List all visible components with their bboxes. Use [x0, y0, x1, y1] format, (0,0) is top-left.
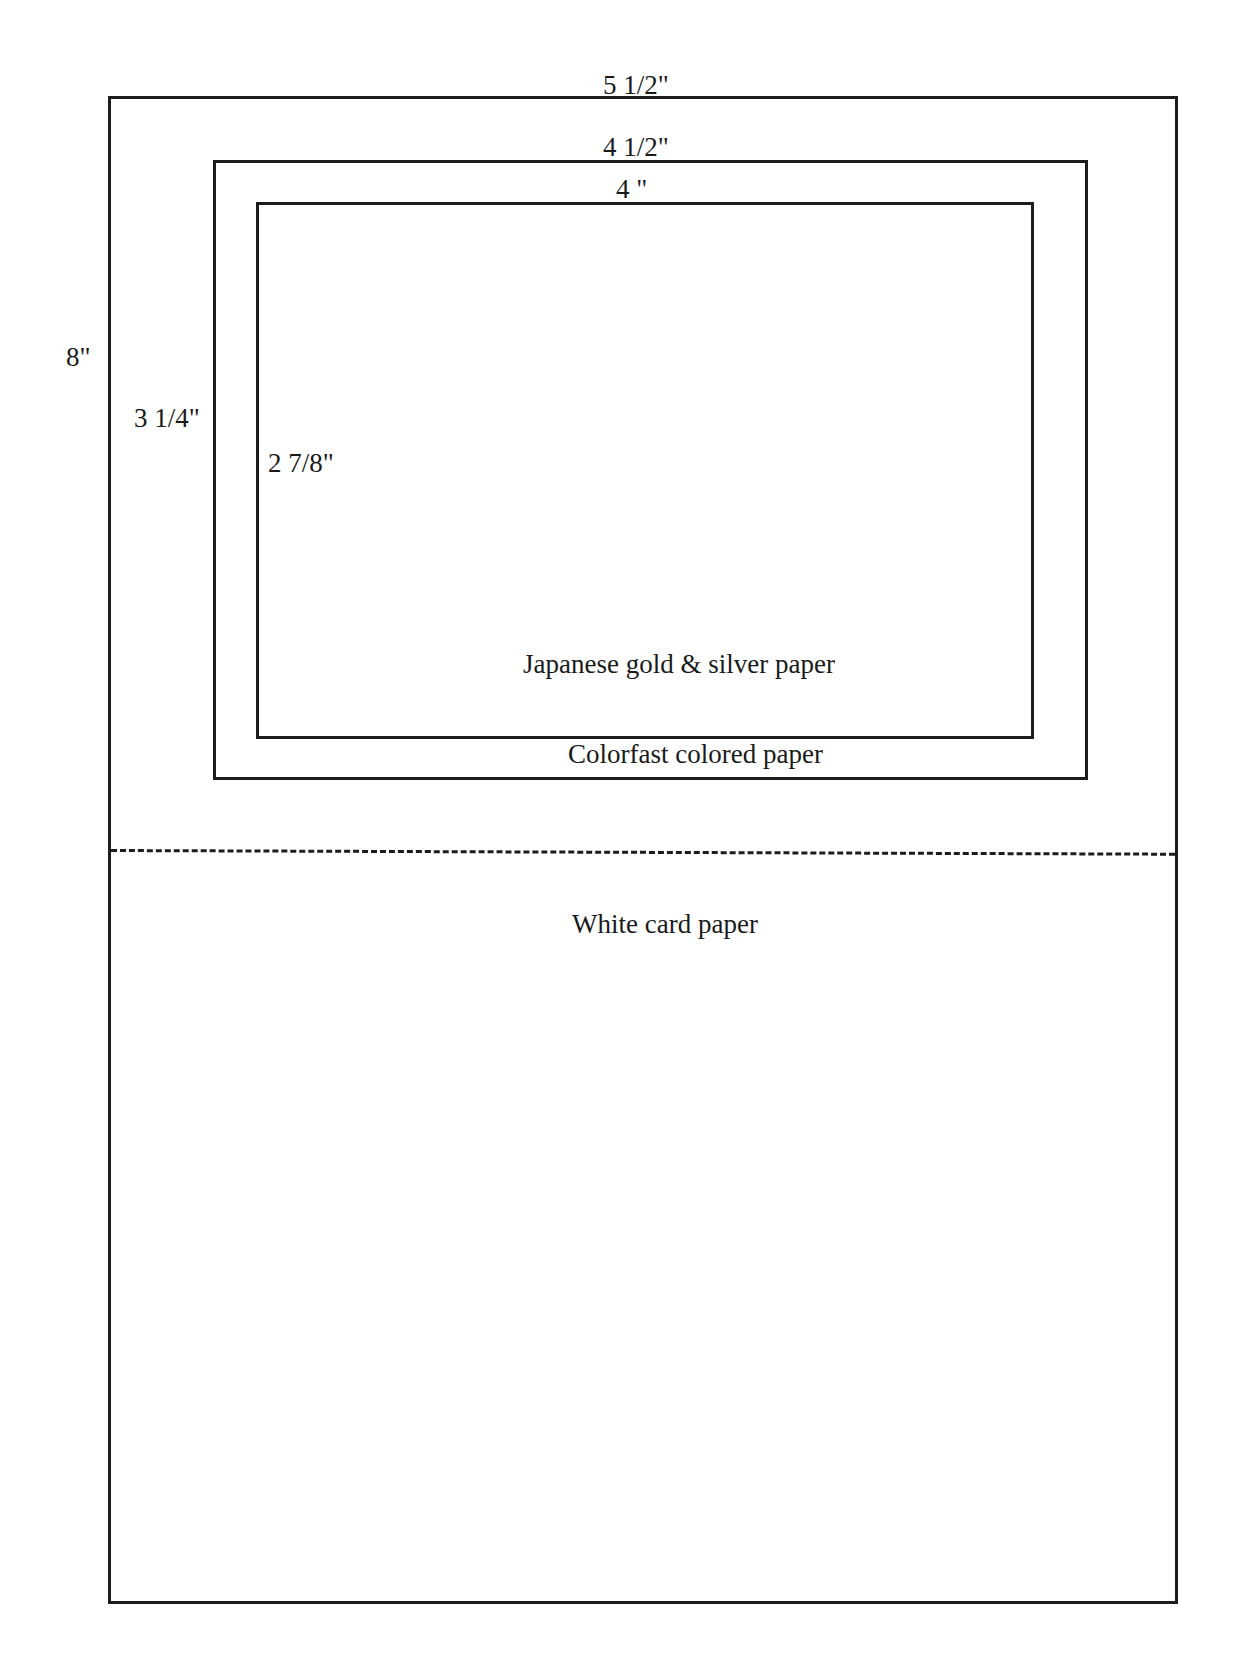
outer-height-label: 8"	[66, 344, 91, 371]
inner-width-label: 4 "	[616, 176, 647, 203]
inner-height-label: 2 7/8"	[268, 450, 334, 477]
card-layout-diagram: 5 1/2" 4 1/2" 4 " 8" 3 1/4" 2 7/8" Japan…	[0, 0, 1240, 1653]
outer-width-label: 5 1/2"	[603, 72, 669, 99]
inner-material-label: Japanese gold & silver paper	[523, 651, 835, 678]
middle-material-label: Colorfast colored paper	[568, 741, 823, 768]
middle-height-label: 3 1/4"	[134, 405, 200, 432]
outer-material-label: White card paper	[572, 911, 758, 938]
middle-width-label: 4 1/2"	[603, 134, 669, 161]
